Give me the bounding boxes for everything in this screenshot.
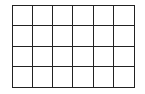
- grid-cell: [53, 67, 73, 87]
- grid-cell: [13, 6, 33, 26]
- grid-cell: [94, 67, 114, 87]
- grid-cell: [13, 47, 33, 67]
- grid-cell: [114, 26, 134, 46]
- grid-cell: [114, 6, 134, 26]
- empty-grid: [12, 5, 135, 88]
- grid-cell: [53, 47, 73, 67]
- grid-cell: [53, 6, 73, 26]
- grid-cell: [13, 26, 33, 46]
- grid-cell: [13, 67, 33, 87]
- grid-cell: [33, 6, 53, 26]
- grid-cell: [73, 47, 93, 67]
- grid-cell: [94, 47, 114, 67]
- grid-cell: [73, 26, 93, 46]
- grid-cell: [94, 26, 114, 46]
- grid-cell: [73, 67, 93, 87]
- grid-cell: [53, 26, 73, 46]
- grid-cell: [94, 6, 114, 26]
- grid-cell: [114, 67, 134, 87]
- grid-cell: [73, 6, 93, 26]
- grid-cell: [33, 47, 53, 67]
- grid-cell: [114, 47, 134, 67]
- grid-cell: [33, 67, 53, 87]
- grid-cell: [33, 26, 53, 46]
